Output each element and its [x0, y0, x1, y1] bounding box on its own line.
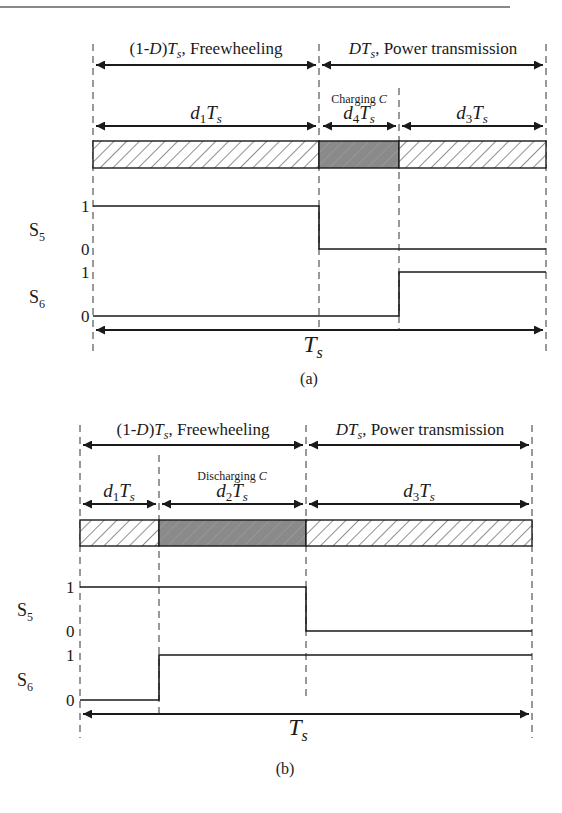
level-0-s6: 0	[66, 691, 75, 710]
bar-segment-hatched	[399, 141, 546, 168]
bar-segment-hatched	[306, 520, 532, 546]
level-0-s5: 0	[81, 240, 90, 259]
segment-label-d3ts: d3Ts	[403, 480, 435, 504]
level-1-s6: 1	[66, 646, 75, 665]
segment-label-d3ts: d3Ts	[456, 102, 488, 126]
level-1-s6: 1	[81, 263, 90, 282]
dashed-guides	[93, 44, 546, 356]
panel-b: (1-D)Ts, Freewheeling DTs, Power transmi…	[17, 420, 532, 778]
bar-segment-shaded	[319, 141, 399, 168]
period-label: Ts	[303, 331, 323, 361]
interval-bar	[93, 141, 546, 168]
interval-bar	[80, 520, 532, 546]
panel-caption-b: (b)	[276, 760, 295, 778]
power-transmission-label: DTs, Power transmission	[348, 39, 518, 61]
signal-label-s6: S6	[29, 287, 45, 311]
timing-diagram-figure: (1-D)Ts, Freewheeling DTs, Power transmi…	[0, 0, 562, 813]
dashed-guides	[80, 425, 532, 738]
level-0-s5: 0	[66, 622, 75, 641]
freewheeling-label: (1-D)Ts, Freewheeling	[117, 420, 270, 442]
segment-label-d2ts: d2Ts	[216, 480, 248, 504]
signal-label-s6: S6	[17, 670, 33, 694]
bar-segment-shaded	[159, 520, 306, 546]
signal-label-s5: S5	[17, 600, 33, 624]
level-1-s5: 1	[81, 197, 90, 216]
power-transmission-label: DTs, Power transmission	[335, 420, 505, 442]
period-label: Ts	[288, 714, 308, 744]
waveform-s5	[93, 206, 546, 249]
panel-caption-a: (a)	[300, 370, 318, 388]
segment-label-d1ts: d1Ts	[103, 480, 135, 504]
freewheeling-label: (1-D)Ts, Freewheeling	[130, 39, 283, 61]
signal-label-s5: S5	[29, 220, 45, 244]
level-1-s5: 1	[66, 578, 75, 597]
waveform-s5	[80, 587, 532, 631]
panel-a: (1-D)Ts, Freewheeling DTs, Power transmi…	[29, 39, 546, 388]
level-0-s6: 0	[81, 307, 90, 326]
bar-segment-hatched	[80, 520, 159, 546]
segment-label-d1ts: d1Ts	[190, 102, 222, 126]
bar-segment-hatched	[93, 141, 319, 168]
